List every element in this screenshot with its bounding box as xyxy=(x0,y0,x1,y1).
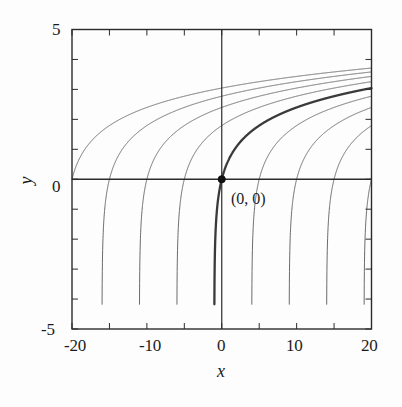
y-tick-label-zero: 0 xyxy=(52,177,60,197)
x-tick-label-zero: 0 xyxy=(217,336,225,356)
y-tick-label-5: 5 xyxy=(52,20,60,40)
y-tick-label-minus5: -5 xyxy=(41,320,55,340)
chart-plot-area xyxy=(0,0,402,407)
curve-1 xyxy=(102,72,371,304)
curve-7 xyxy=(327,126,372,305)
curve-6 xyxy=(289,107,371,304)
figure-container: -20 -10 0 10 20 5 0 -5 x y (0, 0) xyxy=(0,0,402,407)
curve-5 xyxy=(252,96,372,304)
origin-point-marker xyxy=(218,176,225,183)
x-tick-label-10: 10 xyxy=(286,336,303,356)
x-axis-title: x xyxy=(217,361,225,382)
origin-marker xyxy=(218,176,225,183)
curve-8 xyxy=(364,179,371,304)
origin-point-label: (0, 0) xyxy=(231,190,266,208)
curve-3 xyxy=(177,82,372,305)
x-tick-label-minus20: -20 xyxy=(64,336,86,356)
x-tick-label-minus10: -10 xyxy=(139,336,161,356)
y-axis-title: y xyxy=(16,177,37,185)
x-tick-label-20: 20 xyxy=(361,336,378,356)
